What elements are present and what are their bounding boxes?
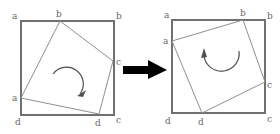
right-inner-square — [172, 20, 265, 113]
right-outer-square — [172, 20, 265, 113]
right-label-outer-bottom-left: d — [165, 116, 171, 126]
counterclockwise-rotation-arrow-icon — [201, 48, 239, 71]
left-panel: a b b c a d d c — [12, 9, 122, 128]
right-panel: a a b b c d d c — [163, 8, 273, 127]
left-label-outer-top-left: a — [12, 11, 18, 21]
left-label-inner-left: a — [12, 93, 18, 103]
right-label-outer-bottom-right: c — [267, 114, 272, 124]
rotating-squares-diagram: a b b c a d d c a a b b c d d c — [0, 0, 280, 134]
right-label-inner-left: a — [163, 36, 169, 46]
clockwise-rotation-arrow-icon — [53, 67, 86, 97]
left-label-outer-top-right: b — [116, 11, 122, 21]
right-label-inner-top: b — [240, 8, 246, 18]
left-label-inner-right: c — [116, 57, 121, 67]
left-label-inner-top: b — [56, 9, 62, 19]
right-label-inner-bottom: d — [198, 117, 204, 127]
right-label-outer-top-left: a — [164, 10, 170, 20]
left-label-outer-bottom-right: c — [116, 115, 121, 125]
left-label-inner-bottom: d — [95, 118, 101, 128]
left-label-outer-bottom-left: d — [15, 117, 21, 127]
right-label-inner-right: c — [267, 80, 272, 90]
right-label-outer-top-right: b — [267, 11, 273, 21]
right-arrow-icon — [123, 60, 167, 79]
